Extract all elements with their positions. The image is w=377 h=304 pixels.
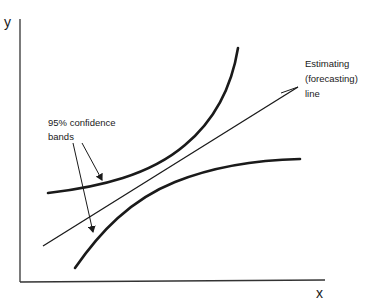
estimating-line-label-1: Estimating <box>305 58 349 69</box>
x-axis <box>20 280 325 282</box>
estimating-line-label-2: (forecasting) <box>305 73 358 84</box>
arrow-to-upper-band <box>82 143 102 180</box>
estimating-line-label-3: line <box>305 88 320 99</box>
estimating-line <box>43 87 298 246</box>
x-axis-label: x <box>316 285 323 301</box>
confidence-bands-label-1: 95% confidence <box>48 117 116 128</box>
confidence-band-diagram: y x Estimating (forecasting) line 95% co… <box>0 0 377 304</box>
lower-confidence-band <box>75 159 300 268</box>
y-axis-label: y <box>4 14 11 30</box>
confidence-bands-label-2: bands <box>48 131 74 142</box>
